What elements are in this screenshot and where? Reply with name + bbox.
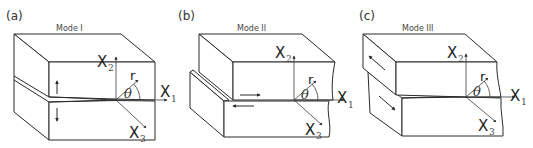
x1-subscript: 1 bbox=[521, 97, 527, 107]
fracture-modes-diagram: (a) Mode I X 2 X 1 X 3 r θ bbox=[0, 0, 533, 148]
x1-subscript: 1 bbox=[171, 94, 177, 104]
x2-subscript: 2 bbox=[286, 54, 292, 64]
panel-c-title: Mode III bbox=[402, 24, 433, 33]
upper-block bbox=[14, 34, 155, 100]
x3-subscript: 3 bbox=[316, 131, 322, 141]
panel-c-label: (c) bbox=[359, 9, 375, 23]
panel-a-title: Mode I bbox=[56, 24, 83, 33]
x3-label: X bbox=[305, 121, 315, 139]
x1-label: X bbox=[160, 83, 170, 101]
upper-block bbox=[199, 34, 335, 100]
x2-label: X bbox=[447, 44, 457, 62]
r-label: r bbox=[308, 72, 314, 87]
x2-subscript: 2 bbox=[458, 54, 464, 64]
x3-subscript: 3 bbox=[140, 134, 146, 144]
x2-label: X bbox=[275, 44, 285, 62]
x3-label: X bbox=[478, 117, 488, 135]
panel-b-label: (b) bbox=[178, 9, 195, 23]
x2-label: X bbox=[97, 53, 107, 71]
panel-a-label: (a) bbox=[6, 9, 23, 23]
theta-label: θ bbox=[301, 87, 309, 102]
panel-b-title: Mode II bbox=[237, 24, 266, 33]
x3-subscript: 3 bbox=[489, 127, 495, 137]
x2-subscript: 2 bbox=[108, 63, 114, 73]
panel-a: (a) Mode I X 2 X 1 X 3 r θ bbox=[6, 9, 177, 144]
r-label: r bbox=[480, 69, 486, 84]
x1-subscript: 1 bbox=[348, 100, 354, 110]
panel-b: (b) Mode II X 2 X 1 X 3 r θ bbox=[178, 9, 354, 141]
panel-c: (c) Mode III X 2 X 1 X 3 r θ bbox=[359, 9, 527, 137]
r-label: r bbox=[130, 68, 136, 83]
x1-label: X bbox=[510, 87, 520, 105]
theta-label: θ bbox=[473, 84, 481, 99]
x1-label: X bbox=[337, 89, 347, 107]
theta-label: θ bbox=[124, 86, 132, 101]
x3-label: X bbox=[129, 124, 139, 142]
